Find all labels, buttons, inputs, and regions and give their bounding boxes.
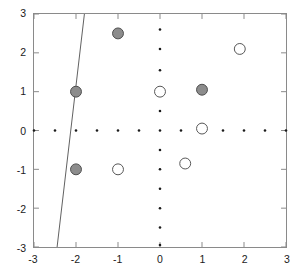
data-point-dot[interactable]: [159, 28, 162, 31]
data-point-dot[interactable]: [159, 48, 162, 51]
x-tick-label: -2: [63, 254, 87, 265]
y-tick-label: -1: [4, 165, 26, 176]
data-point-dot[interactable]: [159, 226, 162, 229]
data-point-circle-open[interactable]: [180, 158, 191, 169]
data-point-dot[interactable]: [159, 187, 162, 190]
data-point-circle-open[interactable]: [234, 43, 245, 54]
data-point-dot[interactable]: [75, 129, 78, 132]
y-tick-label: 2: [4, 47, 26, 58]
data-point-circle-filled[interactable]: [71, 86, 82, 97]
decision-boundary-line: [57, 14, 84, 247]
data-point-dot[interactable]: [159, 207, 162, 210]
data-point-dot[interactable]: [180, 129, 183, 132]
data-point-circle-filled[interactable]: [113, 28, 124, 39]
y-tick-label: 0: [4, 126, 26, 137]
data-point-dot[interactable]: [96, 129, 99, 132]
data-point-circle-filled[interactable]: [71, 164, 82, 175]
data-point-dot[interactable]: [138, 129, 141, 132]
y-tick-label: -2: [4, 204, 26, 215]
data-point-circle-filled[interactable]: [197, 84, 208, 95]
data-point-circle-open[interactable]: [113, 164, 124, 175]
data-point-dot[interactable]: [159, 110, 162, 113]
y-tick-label: 3: [4, 8, 26, 19]
data-point-dot[interactable]: [159, 244, 162, 247]
data-point-dot[interactable]: [159, 168, 162, 171]
data-point-dot[interactable]: [243, 129, 246, 132]
x-tick-label: 1: [190, 254, 214, 265]
data-point-dot[interactable]: [159, 69, 162, 72]
data-point-dot[interactable]: [285, 129, 288, 132]
data-point-dot[interactable]: [264, 129, 267, 132]
data-point-dot[interactable]: [54, 129, 57, 132]
data-point-dot[interactable]: [117, 129, 120, 132]
y-tick-label: -3: [4, 243, 26, 254]
x-tick-label: 0: [148, 254, 172, 265]
data-point-dot[interactable]: [159, 149, 162, 152]
y-tick-label: 1: [4, 86, 26, 97]
x-tick-label: -3: [21, 254, 45, 265]
x-tick-label: 2: [233, 254, 257, 265]
data-point-circle-open[interactable]: [197, 123, 208, 134]
series-axis-dot-markers-vertical: [159, 28, 162, 246]
data-point-dot[interactable]: [159, 129, 162, 132]
series-open-white-markers: [113, 43, 246, 174]
data-points-layer: [33, 28, 288, 246]
series-filled-gray-markers: [71, 28, 208, 175]
data-point-dot[interactable]: [222, 129, 225, 132]
scatter-plot-figure: -3-2-10123 -3-2-10123: [0, 0, 298, 277]
plot-area: [33, 13, 287, 248]
data-point-circle-open[interactable]: [155, 86, 166, 97]
x-tick-label: -1: [106, 254, 130, 265]
x-tick-label: 3: [275, 254, 298, 265]
data-point-dot[interactable]: [33, 129, 36, 132]
chart-canvas: [34, 14, 286, 247]
